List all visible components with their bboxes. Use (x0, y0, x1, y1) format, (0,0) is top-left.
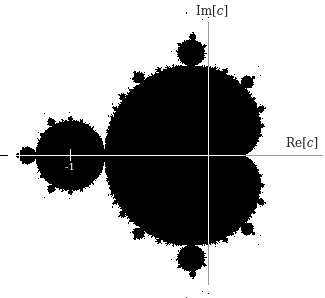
mandelbrot-set-plot (0, 0, 325, 298)
mandelbrot-figure: Im[c] Re[c] -1 (0, 0, 325, 298)
y-axis-label: Im[c] (196, 4, 228, 18)
tick-label-minus-one: -1 (65, 161, 75, 172)
x-axis-label: Re[c] (286, 136, 318, 150)
